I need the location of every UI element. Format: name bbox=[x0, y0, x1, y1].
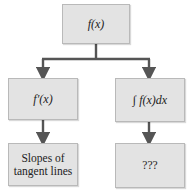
integral-label: ∫ f(x)dx bbox=[133, 93, 167, 108]
function-label: f(x) bbox=[88, 17, 105, 32]
slopes-box: Slopes of tangent lines bbox=[8, 143, 78, 186]
function-box: f(x) bbox=[62, 4, 130, 44]
unknown-label: ??? bbox=[142, 159, 157, 172]
integral-box: ∫ f(x)dx bbox=[115, 78, 185, 122]
unknown-box: ??? bbox=[115, 143, 185, 188]
derivative-label: f′(x) bbox=[33, 92, 52, 107]
derivative-box: f′(x) bbox=[8, 78, 78, 120]
slopes-label: Slopes of tangent lines bbox=[9, 152, 77, 178]
